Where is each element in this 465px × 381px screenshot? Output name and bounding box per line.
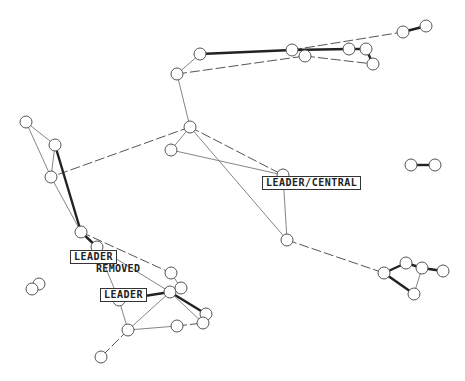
graph-node <box>165 267 177 279</box>
graph-node <box>405 159 417 171</box>
graph-edge <box>287 240 384 273</box>
graph-node <box>171 320 183 332</box>
graph-node <box>164 286 176 298</box>
graph-node <box>26 283 38 295</box>
graph-edge <box>170 292 203 323</box>
node-layer <box>20 20 449 363</box>
graph-node <box>429 159 441 171</box>
graph-node <box>45 171 57 183</box>
graph-node <box>95 351 107 363</box>
graph-node <box>171 68 183 80</box>
graph-edge <box>177 74 190 127</box>
graph-node <box>122 324 134 336</box>
graph-node <box>49 139 61 151</box>
graph-node <box>197 317 209 329</box>
graph-node <box>378 267 390 279</box>
graph-edge <box>171 150 283 175</box>
network-graph-canvas <box>0 0 465 381</box>
graph-node <box>360 43 372 55</box>
graph-node <box>367 58 379 70</box>
graph-node <box>299 50 311 62</box>
leader-central-label: LEADER/CENTRAL <box>262 176 361 190</box>
graph-edge <box>200 50 292 54</box>
leader-removed-label: LEADER <box>70 250 117 264</box>
graph-node <box>343 43 355 55</box>
graph-edge <box>55 145 81 232</box>
graph-node <box>165 144 177 156</box>
graph-node <box>437 265 449 277</box>
graph-node <box>75 226 87 238</box>
graph-node <box>194 48 206 60</box>
graph-edge <box>128 326 177 330</box>
graph-edge <box>26 122 51 177</box>
graph-node <box>420 20 432 32</box>
leader-label: LEADER <box>100 288 147 302</box>
graph-node <box>184 121 196 133</box>
graph-node <box>20 116 32 128</box>
graph-node <box>408 288 420 300</box>
graph-edge <box>190 127 283 175</box>
graph-node <box>397 26 409 38</box>
graph-edge <box>305 56 373 64</box>
graph-edge <box>292 49 349 50</box>
edge-layer <box>26 26 443 357</box>
graph-node <box>281 234 293 246</box>
graph-node <box>416 262 428 274</box>
graph-node <box>400 257 412 269</box>
removed-label: REMOVED <box>96 263 140 275</box>
graph-node <box>286 44 298 56</box>
graph-node <box>175 282 187 294</box>
